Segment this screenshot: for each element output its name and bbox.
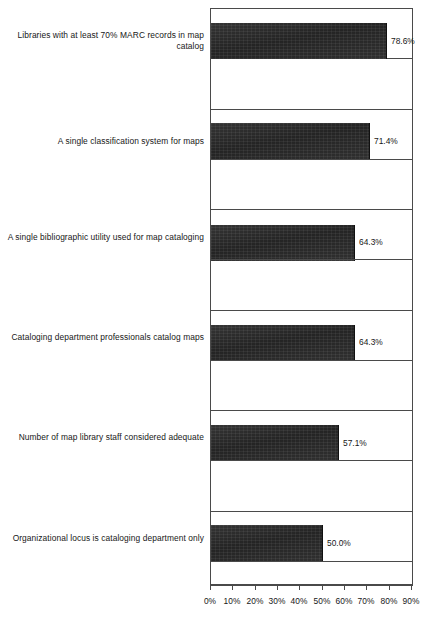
x-axis-tick-label: 80% <box>381 596 398 607</box>
x-axis-tick <box>322 585 323 590</box>
x-axis-tick <box>299 585 300 590</box>
chart-row: Organizational locus is cataloging depar… <box>0 259 425 309</box>
chart-row: Cataloging department professionals cata… <box>0 159 425 209</box>
chart-row: More than one bibliographic utility used… <box>0 511 425 561</box>
x-axis-tick-label: 30% <box>269 596 286 607</box>
chart-row: Cataloging department paraprofessionals … <box>0 360 425 410</box>
x-axis-tick <box>210 585 211 590</box>
x-axis-tick <box>411 585 412 590</box>
chart-rows: Libraries with at least 70% MARC records… <box>0 0 425 621</box>
chart-row: A single classification system for maps7… <box>0 58 425 108</box>
row-divider <box>210 561 413 562</box>
x-axis-tick-label: 10% <box>224 596 241 607</box>
bar <box>211 23 387 59</box>
x-axis-tick <box>255 585 256 590</box>
chart-row: Staff need for map cataloging ranked #13… <box>0 410 425 460</box>
x-axis-tick <box>277 585 278 590</box>
x-axis-line <box>210 585 413 586</box>
bar-value-label: 78.6% <box>391 36 415 47</box>
chart-row: Libraries with at least 70% MARC records… <box>0 8 425 58</box>
chart-row: Number of map library staff considered a… <box>0 209 425 259</box>
chart-row: A single bibliographic utility used for … <box>0 109 425 159</box>
x-axis-tick <box>389 585 390 590</box>
x-axis-tick-label: 40% <box>291 596 308 607</box>
chart-row: Physical location is cataloging departme… <box>0 310 425 360</box>
x-axis-tick-label: 20% <box>247 596 264 607</box>
x-axis-tick-label: 0% <box>204 596 216 607</box>
x-axis-tick-label: 60% <box>336 596 353 607</box>
x-axis-tick <box>232 585 233 590</box>
x-axis-tick-label: 50% <box>314 596 331 607</box>
x-axis-tick-label: 90% <box>403 596 420 607</box>
x-axis-tick-label: 70% <box>358 596 375 607</box>
x-axis-tick <box>344 585 345 590</box>
horizontal-bar-chart: Libraries with at least 70% MARC records… <box>0 0 425 621</box>
x-axis-tick <box>366 585 367 590</box>
chart-row: Map library professionals catalog maps35… <box>0 460 425 510</box>
category-label: Libraries with at least 70% MARC records… <box>4 30 204 52</box>
